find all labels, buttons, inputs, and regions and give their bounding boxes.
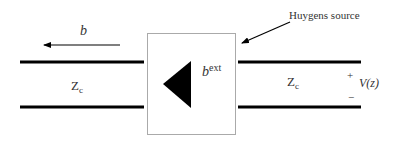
voltage-label: V(z)	[359, 76, 379, 90]
right-transmission-line	[238, 62, 361, 107]
diagram-canvas: b Zc Zc bext Huygens source + − V(z)	[0, 0, 397, 142]
huygens-source-box	[148, 34, 236, 135]
wave-b-label: b	[80, 23, 87, 38]
right-impedance-label: Zc	[287, 74, 299, 91]
voltage-plus-sign: +	[347, 69, 353, 81]
voltage-minus-sign: −	[348, 91, 354, 103]
left-impedance-label: Zc	[71, 78, 83, 95]
huygens-source-label: Huygens source	[289, 9, 360, 21]
huygens-pointer-arrow	[242, 22, 290, 43]
